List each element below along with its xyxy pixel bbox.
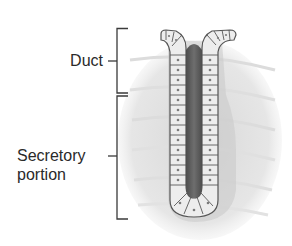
secretory-label-line1: Secretory <box>17 146 85 165</box>
duct-bracket <box>108 29 128 94</box>
secretory-label-line2: portion <box>17 165 85 184</box>
secretory-portion-label: Secretory portion <box>17 146 85 184</box>
duct-label: Duct <box>70 51 103 70</box>
secretory-portion-bracket <box>108 96 128 219</box>
label-brackets <box>0 0 292 246</box>
